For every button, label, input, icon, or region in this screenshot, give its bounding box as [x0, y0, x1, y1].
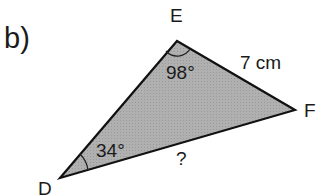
vertex-label-d: D: [38, 179, 52, 196]
side-length-ef: 7 cm: [240, 53, 281, 72]
vertex-label-f: F: [304, 101, 316, 120]
side-unknown-df: ?: [176, 149, 187, 168]
angle-label-e: 98°: [166, 63, 195, 82]
vertex-label-e: E: [170, 6, 183, 25]
triangle-diagram: [0, 0, 321, 196]
part-label: b): [4, 24, 30, 53]
angle-label-d: 34°: [96, 141, 125, 160]
